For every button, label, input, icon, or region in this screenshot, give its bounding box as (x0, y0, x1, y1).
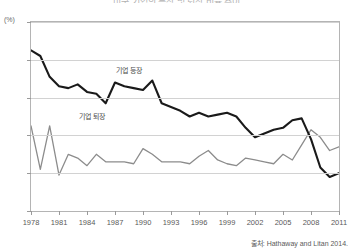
x-tick-label: 2002 (240, 218, 270, 227)
y-tick-mark (27, 98, 31, 99)
x-tick-mark (115, 211, 116, 215)
gridline (31, 173, 339, 174)
x-tick-label: 1984 (72, 218, 102, 227)
x-tick-mark (171, 211, 172, 215)
x-tick-label: 1999 (212, 218, 242, 227)
exit-rate-line (31, 126, 339, 175)
gridline (31, 60, 339, 61)
y-tick-mark (27, 22, 31, 23)
x-tick-mark (339, 211, 340, 215)
x-tick-label: 2005 (268, 218, 298, 227)
x-tick-mark (87, 211, 88, 215)
gridline (31, 22, 339, 23)
plot-area: 6810121416197819811984198719901993199619… (30, 21, 340, 212)
x-tick-mark (199, 211, 200, 215)
gridline (31, 135, 339, 136)
x-tick-mark (59, 211, 60, 215)
x-tick-mark (227, 211, 228, 215)
gridline (31, 98, 339, 99)
chart-title: 미국 기업의 등장 및 퇴장 비율 추이 (0, 0, 354, 3)
x-tick-label: 2011 (324, 218, 354, 227)
x-tick-label: 1993 (156, 218, 186, 227)
y-axis-unit-label: (%) (4, 16, 15, 23)
x-tick-mark (31, 211, 32, 215)
y-tick-mark (27, 135, 31, 136)
x-tick-label: 1981 (44, 218, 74, 227)
x-tick-label: 1987 (100, 218, 130, 227)
y-tick-mark (27, 60, 31, 61)
x-tick-label: 2008 (296, 218, 326, 227)
x-tick-label: 1978 (16, 218, 46, 227)
chart-figure: 미국 기업의 등장 및 퇴장 비율 추이 (%) 681012141619781… (0, 0, 354, 252)
entry-series-label: 기업 등장 (116, 65, 142, 75)
x-tick-mark (311, 211, 312, 215)
y-tick-mark (27, 173, 31, 174)
exit-series-label: 기업 퇴장 (79, 111, 105, 121)
x-tick-label: 1996 (184, 218, 214, 227)
x-tick-mark (143, 211, 144, 215)
x-tick-label: 1990 (128, 218, 158, 227)
source-note: 출처: Hathaway and Litan 2014. (251, 238, 348, 248)
x-tick-mark (255, 211, 256, 215)
x-tick-mark (283, 211, 284, 215)
series-lines (31, 22, 339, 211)
